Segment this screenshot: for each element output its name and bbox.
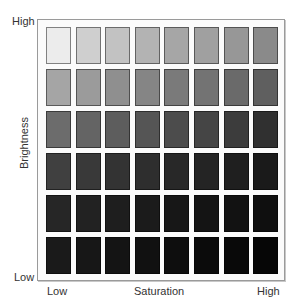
color-swatch [224,195,249,232]
color-swatch [105,111,130,148]
color-swatch [253,27,278,64]
color-swatch [164,237,189,274]
color-swatch [46,237,71,274]
x-axis-low-label: Low [47,285,67,297]
color-swatch [253,69,278,106]
color-swatch [253,111,278,148]
y-axis-title: Brightness [18,117,30,169]
color-swatch [105,237,130,274]
color-swatch [194,69,219,106]
color-swatch [194,27,219,64]
color-swatch [164,195,189,232]
color-swatch [46,27,71,64]
swatch-grid-frame [37,19,285,281]
color-swatch [253,237,278,274]
color-swatch [224,153,249,190]
color-swatch [224,111,249,148]
color-swatch [76,153,101,190]
color-swatch [224,27,249,64]
color-swatch [76,27,101,64]
y-axis-low-label: Low [14,271,34,283]
color-swatch [135,69,160,106]
color-swatch [194,195,219,232]
color-swatch [135,153,160,190]
color-swatch [105,69,130,106]
color-swatch [76,237,101,274]
color-swatch [105,27,130,64]
color-swatch [253,153,278,190]
color-swatch [194,153,219,190]
color-swatch [164,69,189,106]
color-swatch [224,237,249,274]
color-swatch [46,69,71,106]
x-axis-title: Saturation [134,285,184,297]
x-axis-high-label: High [257,285,280,297]
color-swatch [46,111,71,148]
color-swatch [76,195,101,232]
color-swatch [135,237,160,274]
color-swatch [135,195,160,232]
color-swatch [164,153,189,190]
color-swatch [253,195,278,232]
color-swatch [164,111,189,148]
color-swatch [194,111,219,148]
color-swatch [46,195,71,232]
color-swatch [135,27,160,64]
color-swatch [194,237,219,274]
color-swatch [105,153,130,190]
y-axis-high-label: High [12,15,35,27]
color-swatch [76,111,101,148]
color-swatch [224,69,249,106]
color-swatch [105,195,130,232]
color-swatch [135,111,160,148]
color-swatch [76,69,101,106]
color-swatch [164,27,189,64]
color-swatch [46,153,71,190]
